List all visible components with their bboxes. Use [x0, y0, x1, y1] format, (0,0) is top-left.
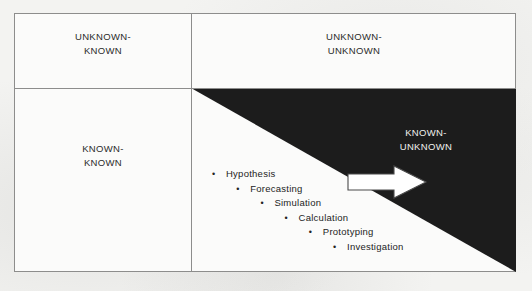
step-item: •Forecasting	[236, 183, 302, 195]
step-label: Hypothesis	[226, 168, 276, 179]
progression-arrow-icon	[345, 164, 429, 200]
quadrant-label-known-unknown: KNOWN- UNKNOWN	[372, 126, 480, 153]
bullet-icon: •	[285, 212, 299, 224]
step-label: Forecasting	[250, 183, 302, 194]
step-item: •Simulation	[260, 197, 321, 209]
step-label: Prototyping	[323, 226, 374, 237]
step-label: Simulation	[274, 197, 321, 208]
bullet-icon: •	[260, 197, 274, 209]
bullet-icon: •	[212, 168, 226, 180]
step-item: •Prototyping	[309, 226, 374, 238]
bullet-icon: •	[309, 226, 323, 238]
bullet-icon: •	[333, 241, 347, 253]
horizontal-divider-left	[14, 88, 192, 89]
step-label: Calculation	[299, 212, 349, 223]
quadrant-label-known-known: KNOWN- KNOWN	[14, 142, 192, 169]
quadrant-label-unknown-known: UNKNOWN- KNOWN	[14, 30, 192, 57]
quadrant-label-unknown-unknown: UNKNOWN- UNKNOWN	[192, 30, 516, 57]
step-item: •Calculation	[285, 212, 349, 224]
horizontal-divider-right	[191, 88, 516, 89]
step-label: Investigation	[347, 241, 404, 252]
step-item: •Hypothesis	[212, 168, 276, 180]
step-item: •Investigation	[333, 241, 404, 253]
bullet-icon: •	[236, 183, 250, 195]
